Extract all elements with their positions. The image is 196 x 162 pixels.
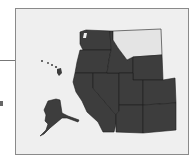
state-new-mexico[interactable] <box>143 103 176 133</box>
state-alaska[interactable] <box>40 99 79 136</box>
state-hawaii[interactable] <box>41 60 62 76</box>
state-colorado[interactable] <box>143 78 176 105</box>
state-wyoming[interactable] <box>133 55 163 80</box>
western-us-map <box>0 0 196 162</box>
state-arizona[interactable] <box>116 105 143 133</box>
state-oregon[interactable] <box>75 50 111 73</box>
